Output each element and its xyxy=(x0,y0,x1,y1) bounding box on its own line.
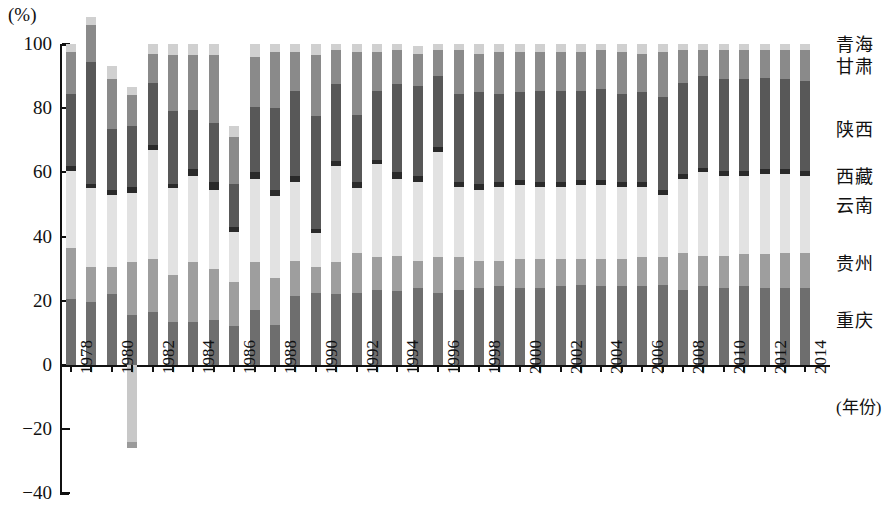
x-axis-tick xyxy=(70,365,72,372)
bar-segment xyxy=(229,326,239,365)
bar-segment xyxy=(576,185,586,259)
bar-segment xyxy=(556,286,566,365)
bar-segment xyxy=(678,290,688,365)
bar-segment xyxy=(168,275,178,322)
bar-segment xyxy=(719,79,729,170)
y-axis-tick-label: 20 xyxy=(33,291,52,310)
bar-segment xyxy=(209,44,219,55)
bar-segment xyxy=(188,55,198,110)
bar-segment xyxy=(515,180,525,185)
bar-segment xyxy=(556,44,566,52)
bar-segment xyxy=(800,253,810,288)
bar-segment xyxy=(229,126,239,137)
x-axis-tick-label: 2006 xyxy=(649,340,666,374)
x-axis-tick xyxy=(152,365,154,372)
bar-segment xyxy=(229,227,239,232)
x-axis-tick-label: 1992 xyxy=(364,340,381,374)
bar-segment xyxy=(331,84,341,161)
bar-segment xyxy=(311,267,321,293)
x-axis-tick-label: 1994 xyxy=(404,340,421,374)
bar-segment xyxy=(352,115,362,182)
bar-segment xyxy=(576,180,586,185)
bar-segment xyxy=(454,187,464,258)
bar-stack xyxy=(433,44,443,495)
bar-segment xyxy=(780,174,790,253)
bar-segment xyxy=(760,44,770,50)
x-axis-tick xyxy=(764,365,766,372)
bar-segment xyxy=(678,179,688,253)
x-axis-tick-label: 2000 xyxy=(527,340,544,374)
x-axis-tick xyxy=(274,365,276,372)
bar-segment xyxy=(617,182,627,187)
bar-segment xyxy=(800,171,810,176)
bar-segment xyxy=(66,166,76,171)
bar-segment xyxy=(107,195,117,267)
bar-segment xyxy=(311,293,321,365)
legend-item-5: 贵州 xyxy=(836,255,874,273)
bar-stack xyxy=(780,44,790,495)
legend-item-0: 青海 xyxy=(836,36,874,54)
bar-stack xyxy=(148,44,158,495)
bar-segment xyxy=(698,256,708,286)
bar-segment xyxy=(596,44,606,50)
bar-segment xyxy=(617,94,627,182)
x-axis-tick xyxy=(192,365,194,372)
bar-segment xyxy=(698,168,708,173)
legend-item-4: 云南 xyxy=(836,197,874,215)
bar-segment xyxy=(576,91,586,181)
bar-segment xyxy=(494,52,504,94)
bar-segment xyxy=(290,182,300,261)
bar-stack xyxy=(270,44,280,495)
bar-segment xyxy=(250,179,260,262)
bar-segment xyxy=(311,44,321,55)
bar-segment xyxy=(637,92,647,182)
bar-segment xyxy=(229,232,239,282)
bar-stack xyxy=(392,44,402,495)
bar-segment xyxy=(800,50,810,80)
bar-segment xyxy=(148,145,158,150)
bar-segment xyxy=(780,50,790,79)
bar-stack xyxy=(168,44,178,495)
bar-segment xyxy=(739,44,749,50)
y-axis-tick-label: 80 xyxy=(33,98,52,117)
bar-segment xyxy=(290,261,300,296)
x-axis-tick xyxy=(396,365,398,372)
x-axis-tick-label: 2004 xyxy=(608,340,625,374)
bar-segment xyxy=(127,187,137,193)
bar-segment xyxy=(515,52,525,92)
bar-segment xyxy=(678,174,688,179)
bar-segment xyxy=(760,50,770,77)
bar-segment xyxy=(719,256,729,288)
bar-segment xyxy=(698,44,708,50)
bar-segment xyxy=(352,52,362,115)
bar-segment xyxy=(148,54,158,83)
x-axis-tick-label: 2012 xyxy=(772,340,789,374)
bar-segment xyxy=(107,129,117,190)
bar-segment xyxy=(168,55,178,111)
bar-segment xyxy=(107,294,117,365)
x-axis-tick-label: 2008 xyxy=(690,340,707,374)
bar-stack xyxy=(188,44,198,495)
bar-segment xyxy=(637,187,647,258)
bar-segment xyxy=(168,188,178,275)
bar-segment xyxy=(127,193,137,262)
x-axis-tick xyxy=(560,365,562,372)
bar-segment xyxy=(209,55,219,122)
bar-segment xyxy=(739,176,749,255)
bar-segment xyxy=(270,52,280,108)
bar-segment xyxy=(474,190,484,261)
bar-segment xyxy=(188,44,198,55)
bar-segment xyxy=(209,190,219,269)
x-axis-tick xyxy=(682,365,684,372)
bar-segment xyxy=(148,150,158,259)
bar-segment xyxy=(250,172,260,178)
bar-stack xyxy=(474,44,484,495)
bar-segment xyxy=(760,169,770,174)
bar-segment xyxy=(250,44,260,57)
bar-segment xyxy=(127,126,137,187)
y-axis-tick-label: 0 xyxy=(43,355,53,374)
bar-segment xyxy=(392,50,402,84)
bar-segment xyxy=(719,171,729,176)
bar-segment xyxy=(107,267,117,294)
bar-stack xyxy=(719,44,729,495)
